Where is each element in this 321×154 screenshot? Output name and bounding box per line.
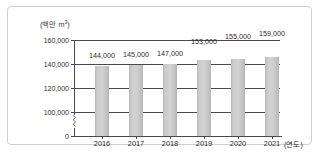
y-axis-unit-prefix: (백만 m: [40, 20, 64, 29]
value-label-2021: 159,000: [259, 29, 285, 38]
bar-2019[interactable]: [197, 60, 211, 136]
xtick-label-2018: 2018: [162, 139, 178, 148]
ytick-label-120000: 120,000: [44, 85, 69, 92]
x-axis-line: [74, 136, 282, 137]
xtick-label-2016: 2016: [94, 139, 110, 148]
xtick-label-2017: 2017: [128, 139, 144, 148]
value-label-2019: 153,000: [191, 37, 217, 46]
xtick-label-2019: 2019: [196, 139, 212, 148]
x-axis-title: (연도): [284, 139, 303, 149]
bar-2020[interactable]: [231, 59, 245, 136]
y-axis-unit-label: (백만 m3): [40, 19, 70, 29]
value-label-2020: 155,000: [225, 32, 251, 41]
y-axis-unit-suffix: ): [67, 20, 69, 29]
bar-2018[interactable]: [163, 64, 177, 136]
ytick-label-100000: 100,000: [44, 109, 69, 116]
value-label-2016: 144,000: [89, 51, 115, 60]
value-label-2017: 145,000: [123, 50, 149, 59]
ytick-label-160000: 160,000: [44, 37, 69, 44]
xtick-label-2020: 2020: [230, 139, 246, 148]
xtick-label-2021: 2021: [264, 139, 280, 148]
bar-2016[interactable]: [95, 66, 109, 136]
value-label-2018: 147,000: [157, 49, 183, 58]
ytick-label-140000: 140,000: [44, 61, 69, 68]
ytick-label-0: 0: [65, 133, 69, 140]
bar-chart: (백만 m3) 160,000 140,000 120,000 100,000 …: [8, 7, 313, 146]
chart-frame: (백만 m3) 160,000 140,000 120,000 100,000 …: [7, 6, 312, 145]
bar-2021[interactable]: [265, 57, 279, 136]
bar-2017[interactable]: [129, 65, 143, 136]
